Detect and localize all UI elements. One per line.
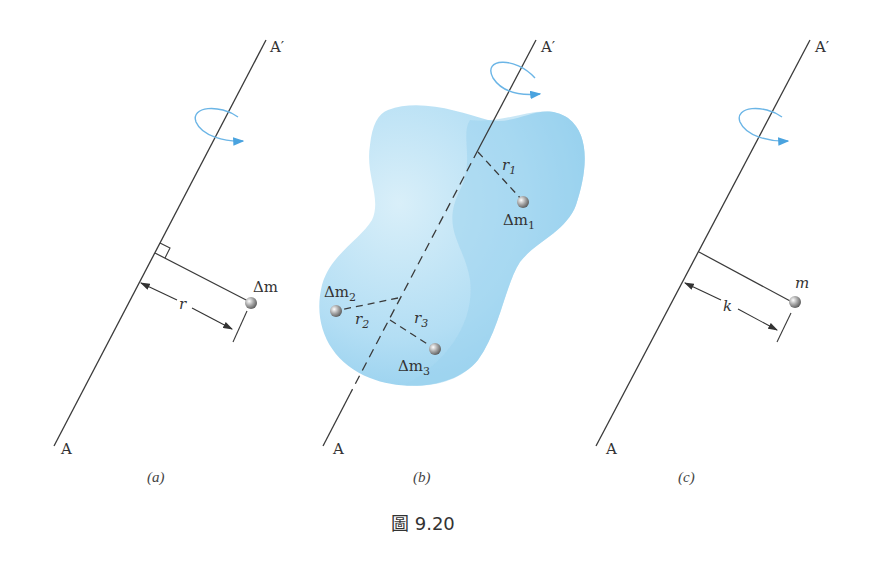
perpendicular-line <box>699 252 792 302</box>
axis-top-label: A′ <box>269 38 285 56</box>
perpendicular-line <box>155 253 250 302</box>
particle <box>245 297 257 309</box>
particle-2 <box>330 305 342 317</box>
axis-bottom-label: A <box>332 440 344 458</box>
caption-b: (b) <box>413 469 431 486</box>
figure-9-20: r Δm A′ A (a) r1 Δm1 r2 Δm2 r3 Δm3 <box>0 0 875 565</box>
figure-title: 圖 9.20 <box>391 513 455 534</box>
rotation-arrow-icon <box>195 108 243 141</box>
distance-label: k <box>723 297 732 315</box>
dimension-tick <box>233 311 247 342</box>
axis-top-label: A′ <box>540 38 556 56</box>
particle-label: m <box>795 274 809 292</box>
caption-c: (c) <box>678 469 695 486</box>
dimension-arrow-left <box>685 283 721 300</box>
panel-c: k m A′ A (c) <box>596 38 830 486</box>
particle-1 <box>517 196 529 208</box>
dimension-arrow-right <box>192 308 232 329</box>
panel-b: r1 Δm1 r2 Δm2 r3 Δm3 A′ A (b) <box>319 38 584 486</box>
particle-label: Δm <box>253 278 278 296</box>
rotation-axis <box>596 40 810 446</box>
rotation-arrow-icon <box>739 108 788 141</box>
panel-a: r Δm A′ A (a) <box>54 38 285 486</box>
dimension-tick <box>777 313 791 342</box>
axis-bottom-label: A <box>60 440 72 458</box>
axis-bottom-label: A <box>605 440 617 458</box>
particle-3 <box>429 343 441 355</box>
rotation-axis <box>323 394 350 446</box>
caption-a: (a) <box>147 469 165 486</box>
dimension-arrow-left <box>141 283 177 300</box>
dimension-arrow-right <box>738 309 777 330</box>
axis-top-label: A′ <box>814 38 830 56</box>
distance-label: r <box>179 295 187 313</box>
particle <box>789 296 801 308</box>
